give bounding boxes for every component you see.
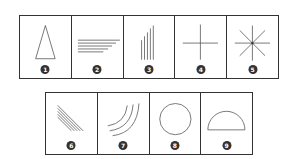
bottom-row-panel: 6 7 8 9	[45, 92, 253, 155]
cell-6: 6	[46, 93, 98, 154]
number-badge: 4	[196, 65, 205, 74]
cell-4: 4	[175, 16, 227, 78]
cell-9: 9	[201, 93, 252, 154]
number-badge: 7	[119, 141, 128, 150]
number-badge: 2	[93, 65, 102, 74]
cell-3: 3	[124, 16, 176, 78]
number-badge: 8	[170, 141, 179, 150]
cell-5: 5	[227, 16, 278, 78]
cell-7: 7	[98, 93, 150, 154]
number-badge: 5	[248, 65, 257, 74]
number-badge: 6	[67, 141, 76, 150]
top-row-panel: 1 2 3 4 5	[19, 15, 279, 79]
number-badge: 3	[144, 65, 153, 74]
number-badge: 9	[222, 141, 231, 150]
cell-1: 1	[20, 16, 72, 78]
cell-8: 8	[150, 93, 202, 154]
number-badge: 1	[41, 65, 50, 74]
cell-2: 2	[72, 16, 124, 78]
